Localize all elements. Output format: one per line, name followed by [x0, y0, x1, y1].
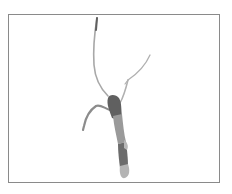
right-branch-lower — [120, 80, 128, 103]
upper-branch-tip — [96, 18, 97, 30]
main-trunk-tip — [120, 164, 130, 178]
main-trunk-upper — [113, 114, 126, 144]
left-branch — [83, 105, 110, 130]
right-branch — [128, 55, 150, 80]
specimen-image — [0, 0, 232, 194]
